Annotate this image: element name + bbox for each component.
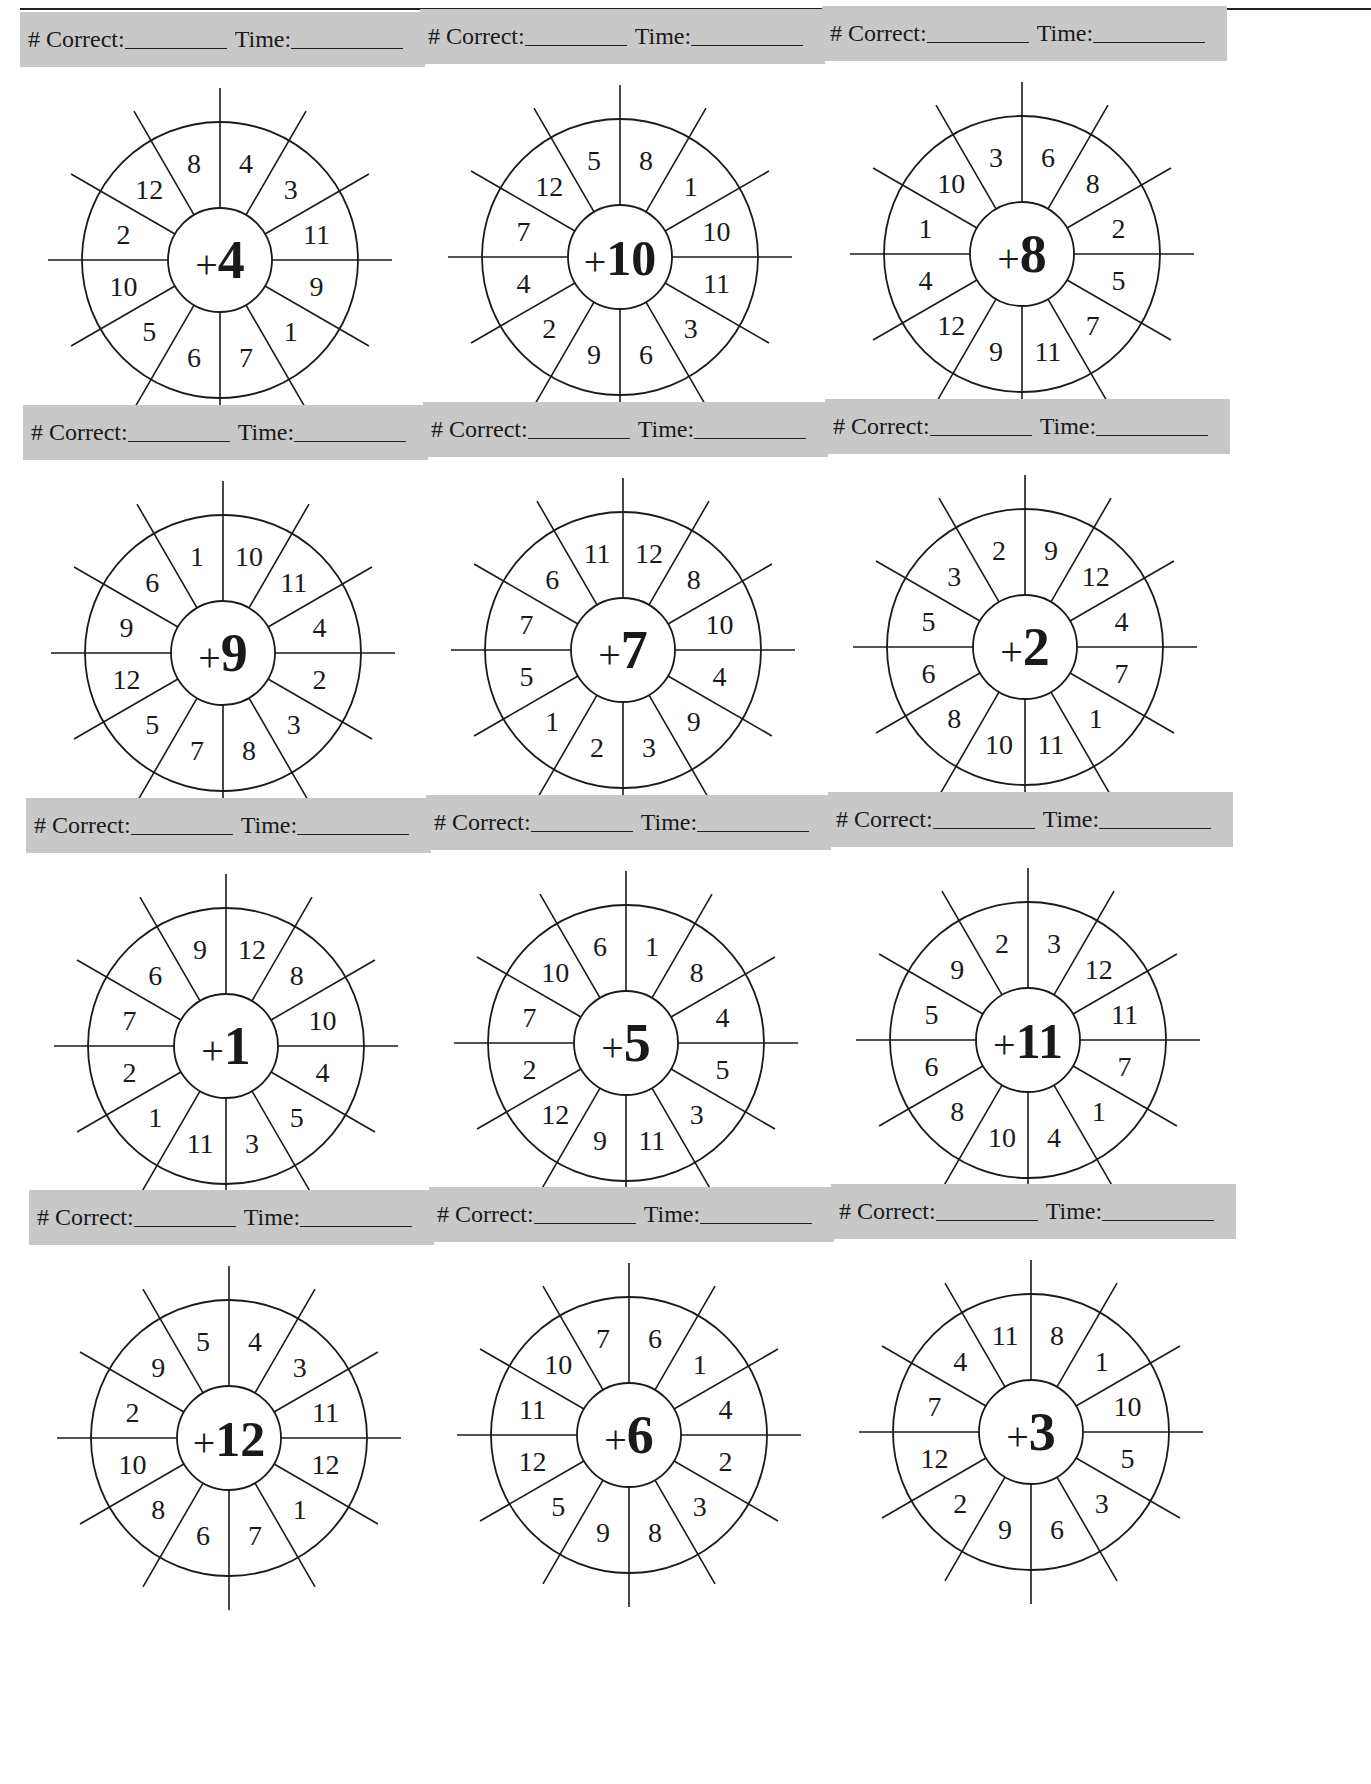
plus-sign: +: [584, 239, 607, 284]
wedge-number: 12: [112, 664, 140, 695]
wedge-number: 11: [187, 1128, 214, 1159]
wedge-number: 8: [639, 145, 653, 176]
wedge-number: 2: [542, 313, 556, 344]
wedge-number: 3: [684, 313, 698, 344]
time-label: Time:: [244, 1204, 300, 1231]
wedge-number: 9: [596, 1517, 610, 1548]
correct-label: # Correct:: [34, 812, 131, 839]
correct-count-field[interactable]: [927, 24, 1029, 43]
wedge-number: 1: [293, 1494, 307, 1525]
time-field[interactable]: [1102, 1202, 1214, 1221]
correct-label: # Correct:: [431, 416, 528, 443]
wedge-number: 9: [310, 271, 324, 302]
addend-value: 2: [1023, 617, 1050, 677]
wedge-number: 10: [541, 957, 569, 988]
addition-wheel-10: 811011369247125+10: [430, 67, 810, 447]
wedge-number: 2: [125, 1397, 139, 1428]
wedge-number: 4: [248, 1326, 262, 1357]
wedge-number: 4: [716, 1002, 730, 1033]
correct-count-field[interactable]: [128, 423, 230, 442]
addition-wheel-8: 682571191241103+8: [832, 64, 1212, 444]
wedge-number: 12: [1085, 954, 1113, 985]
wedge-number: 11: [992, 1320, 1019, 1351]
wedge-number: 9: [593, 1125, 607, 1156]
wedge-number: 2: [995, 928, 1009, 959]
wedge-number: 7: [122, 1005, 136, 1036]
wedge-number: 3: [293, 1352, 307, 1383]
correct-count-field[interactable]: [131, 816, 233, 835]
wedge-number: 3: [690, 1099, 704, 1130]
time-label: Time:: [241, 812, 297, 839]
correct-count-field[interactable]: [531, 813, 633, 832]
wedge-number: 6: [924, 1051, 938, 1082]
addition-wheel-card-12: # Correct: Time: 811053692127411+3: [831, 1184, 1236, 1629]
wedge-number: 11: [312, 1397, 339, 1428]
wedge-number: 12: [135, 174, 163, 205]
addend-value: 1: [224, 1016, 251, 1076]
wedge-number: 5: [1112, 265, 1126, 296]
correct-count-field[interactable]: [134, 1208, 236, 1227]
addition-wheel-1: 128104531112769+1: [36, 856, 416, 1236]
wedge-number: 1: [693, 1349, 707, 1380]
time-field[interactable]: [691, 27, 803, 46]
correct-label: # Correct:: [37, 1204, 134, 1231]
time-label: Time:: [1043, 806, 1099, 833]
time-field[interactable]: [1099, 810, 1211, 829]
correct-count-field[interactable]: [525, 27, 627, 46]
wedge-number: 5: [924, 999, 938, 1030]
time-field[interactable]: [300, 1208, 412, 1227]
wedge-number: 6: [1041, 142, 1055, 173]
wedge-number: 11: [584, 538, 611, 569]
wedge-number: 7: [522, 1002, 536, 1033]
score-bar: # Correct: Time:: [29, 1190, 434, 1245]
addend-value: 12: [215, 1411, 265, 1467]
correct-count-field[interactable]: [528, 420, 630, 439]
plus-sign: +: [997, 236, 1020, 281]
wedge-number: 1: [1095, 1346, 1109, 1377]
time-field[interactable]: [294, 423, 406, 442]
correct-count-field[interactable]: [125, 30, 227, 49]
correct-count-field[interactable]: [534, 1205, 636, 1224]
time-field[interactable]: [297, 816, 409, 835]
time-field[interactable]: [1096, 417, 1208, 436]
wedge-number: 9: [1044, 535, 1058, 566]
wedge-number: 4: [719, 1394, 733, 1425]
wedge-number: 1: [1092, 1096, 1106, 1127]
wedge-number: 12: [635, 538, 663, 569]
correct-label: # Correct:: [839, 1198, 936, 1225]
time-label: Time:: [644, 1201, 700, 1228]
addend-value: 10: [606, 230, 656, 286]
wedge-number: 10: [309, 1005, 337, 1036]
addition-wheel-12: 431112176810295+12: [39, 1248, 419, 1628]
wedge-number: 7: [1118, 1051, 1132, 1082]
wedge-number: 4: [316, 1057, 330, 1088]
score-bar: # Correct: Time:: [429, 1187, 834, 1242]
correct-count-field[interactable]: [936, 1202, 1038, 1221]
time-field[interactable]: [694, 420, 806, 439]
wedge-number: 6: [648, 1323, 662, 1354]
score-bar: # Correct: Time:: [825, 399, 1230, 454]
score-bar: # Correct: Time:: [426, 795, 831, 850]
wedge-number: 10: [988, 1122, 1016, 1153]
wedge-number: 11: [303, 219, 330, 250]
addend-label: +12: [193, 1411, 266, 1467]
time-field[interactable]: [1093, 24, 1205, 43]
wedge-number: 11: [519, 1394, 546, 1425]
addend-value: 8: [1020, 224, 1047, 284]
addition-wheel-card-9: # Correct: Time: 312117141086592+11: [828, 792, 1233, 1237]
wedge-number: 1: [545, 706, 559, 737]
addition-wheel-5: 184531191227106+5: [436, 853, 816, 1233]
wedge-number: 4: [713, 661, 727, 692]
time-field[interactable]: [700, 1205, 812, 1224]
addition-wheel-6: 614238951211107+6: [439, 1245, 819, 1625]
correct-count-field[interactable]: [933, 810, 1035, 829]
time-field[interactable]: [291, 30, 403, 49]
correct-count-field[interactable]: [930, 417, 1032, 436]
time-field[interactable]: [697, 813, 809, 832]
addition-wheel-card-2: # Correct: Time: 811011369247125+10: [420, 9, 825, 454]
wedge-number: 1: [1089, 703, 1103, 734]
addend-value: 4: [218, 230, 245, 290]
wedge-number: 7: [519, 609, 533, 640]
wedge-number: 6: [921, 658, 935, 689]
wedge-number: 7: [596, 1323, 610, 1354]
